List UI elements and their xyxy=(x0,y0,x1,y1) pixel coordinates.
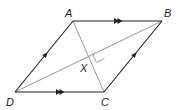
vertex-label-b: B xyxy=(164,7,171,19)
vertex-label-d: D xyxy=(6,96,14,108)
diagonal-db xyxy=(15,21,162,92)
double-arrow-icon-dc xyxy=(56,89,65,95)
intersection-label-x: X xyxy=(79,62,88,74)
vertex-label-a: A xyxy=(64,7,72,19)
double-arrow-icon-ab xyxy=(114,18,123,24)
parallelogram-diagram: A B C D X xyxy=(0,0,184,110)
vertex-label-c: C xyxy=(101,96,109,108)
right-angle-mark xyxy=(93,54,105,63)
diagram-canvas: A B C D X xyxy=(0,0,184,110)
